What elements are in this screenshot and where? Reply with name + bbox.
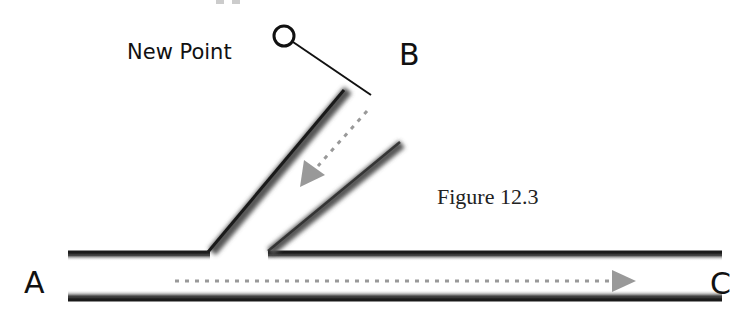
top-text-fragment — [232, 0, 240, 4]
new-point-marker — [274, 26, 371, 95]
top-text-fragment — [216, 0, 224, 4]
figure-caption: Figure 12.3 — [437, 184, 538, 209]
new-point-circle-icon — [274, 26, 294, 46]
pipe-wall-top-left — [68, 251, 210, 261]
pipe-junction-diagram: New Point B A C Figure 12.3 — [0, 0, 751, 325]
label-b: B — [399, 37, 420, 72]
flow-arrow-a-to-c — [175, 270, 636, 292]
pipe-wall-bottom — [68, 290, 722, 301]
label-a: A — [24, 265, 45, 300]
branch-wall-outer — [208, 90, 348, 252]
pipe-wall-top-right — [268, 251, 722, 261]
new-point-label: New Point — [127, 40, 232, 64]
arrowhead-right-icon — [612, 270, 636, 292]
label-c: C — [710, 266, 731, 301]
